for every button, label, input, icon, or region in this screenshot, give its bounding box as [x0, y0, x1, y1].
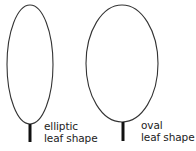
elliptic-leaf-outline-icon [7, 5, 53, 124]
oval-label-line-1: oval [141, 120, 195, 132]
elliptic-label-line-1: elliptic [44, 121, 98, 133]
oval-leaf-outline-icon [86, 5, 158, 122]
elliptic-leaf-label: elliptic leaf shape [44, 121, 98, 144]
elliptic-label-line-2: leaf shape [44, 133, 98, 145]
oval-label-line-2: leaf shape [141, 132, 195, 144]
oval-leaf-label: oval leaf shape [141, 120, 195, 143]
